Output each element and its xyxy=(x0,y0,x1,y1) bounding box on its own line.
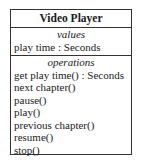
values-compartment: values play time : Seconds xyxy=(11,28,131,56)
values-label: values xyxy=(14,28,128,41)
value-item: play time : Seconds xyxy=(14,41,128,54)
operation-item: resume() xyxy=(14,131,128,144)
operation-item: stop() xyxy=(14,144,128,157)
operation-item: play() xyxy=(14,106,128,119)
operation-item: pause() xyxy=(14,94,128,107)
operation-item: get play time() : Seconds xyxy=(14,69,128,82)
operations-compartment: operations get play time() : Seconds nex… xyxy=(11,56,131,156)
class-name: Video Player xyxy=(11,10,131,28)
operation-item: previous chapter() xyxy=(14,119,128,132)
uml-class-box: Video Player values play time : Seconds … xyxy=(10,9,132,155)
operation-item: next chapter() xyxy=(14,81,128,94)
operations-label: operations xyxy=(14,56,128,69)
